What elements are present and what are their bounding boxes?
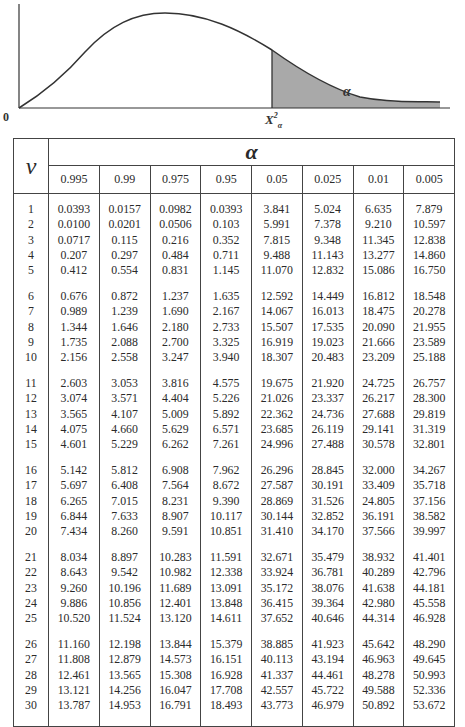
critical-value-cell: 18.475 [353, 304, 404, 319]
table-row: 207.4348.2609.59110.85131.41034.17037.56… [14, 524, 455, 539]
spacer-cell [14, 194, 49, 203]
table-row: 50.4120.5540.8311.14511.07012.83215.0861… [14, 263, 455, 278]
critical-value-cell: 0.216 [150, 233, 201, 248]
critical-value-cell: 10.117 [201, 509, 252, 524]
critical-value-cell: 13.848 [201, 596, 252, 611]
table-row: 40.2070.2970.4840.7119.48811.14313.27714… [14, 248, 455, 263]
critical-value-cell: 33.924 [252, 565, 303, 580]
critical-value-cell: 45.642 [353, 637, 404, 652]
spacer-cell [201, 713, 252, 727]
critical-value-cell: 9.542 [99, 565, 150, 580]
critical-value-cell: 7.962 [201, 463, 252, 478]
critical-value-cell: 5.892 [201, 407, 252, 422]
spacer-cell [99, 194, 150, 203]
critical-value-cell: 2.180 [150, 320, 201, 335]
spacer-cell [404, 278, 455, 289]
critical-value-cell: 49.645 [404, 652, 455, 667]
critical-value-cell: 7.015 [99, 494, 150, 509]
critical-value-cell: 6.262 [150, 437, 201, 452]
group-gap-row [14, 365, 455, 376]
critical-value-cell: 0.989 [49, 304, 100, 319]
critical-value-cell: 15.086 [353, 263, 404, 278]
critical-value-cell: 19.023 [302, 335, 353, 350]
group-gap-row [14, 626, 455, 637]
critical-value-cell: 13.565 [99, 668, 150, 683]
critical-value-cell: 30.191 [302, 478, 353, 493]
spacer-cell [150, 278, 201, 289]
critical-value-cell: 12.461 [49, 668, 100, 683]
critical-value-cell: 9.488 [252, 248, 303, 263]
critical-value-cell: 3.325 [201, 335, 252, 350]
degrees-of-freedom-cell: 10 [14, 350, 49, 365]
table-row: 249.88610.85612.40113.84836.41539.36442.… [14, 596, 455, 611]
degrees-of-freedom-cell: 16 [14, 463, 49, 478]
critical-value-cell: 32.801 [404, 437, 455, 452]
spacer-cell [150, 713, 201, 727]
critical-value-cell: 30.144 [252, 509, 303, 524]
table-row: 30.07170.1150.2160.3527.8159.34811.34512… [14, 233, 455, 248]
critical-value-cell: 5.142 [49, 463, 100, 478]
critical-value-cell: 3.841 [252, 202, 303, 217]
critical-value-cell: 25.188 [404, 350, 455, 365]
critical-value-cell: 10.520 [49, 611, 100, 626]
critical-value-cell: 31.526 [302, 494, 353, 509]
degrees-of-freedom-cell: 25 [14, 611, 49, 626]
critical-value-cell: 43.773 [252, 698, 303, 713]
critical-value-cell: 2.558 [99, 350, 150, 365]
spacer-cell [14, 365, 49, 376]
critical-value-cell: 11.143 [302, 248, 353, 263]
degrees-of-freedom-cell: 26 [14, 637, 49, 652]
critical-value-cell: 3.053 [99, 376, 150, 391]
critical-value-cell: 9.886 [49, 596, 100, 611]
spacer-cell [252, 626, 303, 637]
critical-value-cell: 2.700 [150, 335, 201, 350]
critical-value-cell: 40.113 [252, 652, 303, 667]
critical-value-cell: 28.300 [404, 391, 455, 406]
critical-value-cell: 1.690 [150, 304, 201, 319]
critical-value-cell: 39.364 [302, 596, 353, 611]
degrees-of-freedom-cell: 14 [14, 422, 49, 437]
critical-value-cell: 42.796 [404, 565, 455, 580]
critical-value-cell: 1.344 [49, 320, 100, 335]
spacer-cell [302, 539, 353, 550]
critical-value-cell: 38.582 [404, 509, 455, 524]
spacer-cell [353, 539, 404, 550]
table-row: 3013.78714.95316.79118.49343.77346.97950… [14, 698, 455, 713]
critical-value-cell: 0.554 [99, 263, 150, 278]
critical-value-cell: 26.119 [302, 422, 353, 437]
spacer-cell [404, 452, 455, 463]
critical-value-cell: 1.735 [49, 335, 100, 350]
spacer-cell [353, 626, 404, 637]
critical-value-cell: 14.860 [404, 248, 455, 263]
spacer-cell [302, 713, 353, 727]
shaded-tail-region [272, 50, 440, 108]
critical-value-cell: 1.239 [99, 304, 150, 319]
critical-value-cell: 29.819 [404, 407, 455, 422]
critical-value-cell: 26.296 [252, 463, 303, 478]
spacer-cell [150, 539, 201, 550]
critical-value-cell: 48.278 [353, 668, 404, 683]
spacer-cell [302, 626, 353, 637]
critical-value-cell: 4.601 [49, 437, 100, 452]
critical-value-cell: 23.685 [252, 422, 303, 437]
table-row: 2812.46113.56515.30816.92841.33744.46148… [14, 668, 455, 683]
shaded-area-label: α [343, 84, 351, 100]
critical-value-cell: 21.955 [404, 320, 455, 335]
critical-value-cell: 48.290 [404, 637, 455, 652]
spacer-cell [49, 365, 100, 376]
table-row: 112.6033.0533.8164.57519.67521.92024.725… [14, 376, 455, 391]
critical-value-cell: 13.277 [353, 248, 404, 263]
degrees-of-freedom-cell: 21 [14, 550, 49, 565]
critical-value-cell: 45.558 [404, 596, 455, 611]
critical-value-cell: 41.401 [404, 550, 455, 565]
critical-value-cell: 4.575 [201, 376, 252, 391]
alpha-level-header: 0.05 [252, 166, 303, 194]
critical-value-cell: 24.725 [353, 376, 404, 391]
table-row: 10.03930.01570.09820.03933.8415.0246.635… [14, 202, 455, 217]
critical-value-cell: 40.646 [302, 611, 353, 626]
spacer-cell [201, 626, 252, 637]
spacer-cell [252, 539, 303, 550]
degrees-of-freedom-cell: 6 [14, 289, 49, 304]
critical-value-cell: 12.338 [201, 565, 252, 580]
critical-value-cell: 11.808 [49, 652, 100, 667]
